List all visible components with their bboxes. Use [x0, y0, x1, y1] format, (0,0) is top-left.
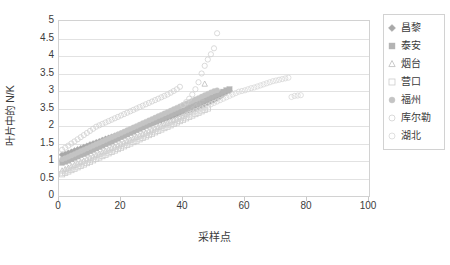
data-point — [128, 109, 133, 114]
data-point — [109, 117, 114, 122]
legend-item-label: 营口 — [401, 77, 421, 87]
data-point — [159, 95, 164, 100]
data-point — [258, 83, 263, 88]
data-point — [230, 92, 235, 97]
x-axis-tick-labels: 020406080100 — [58, 200, 370, 216]
legend-marker-icon — [387, 95, 397, 105]
data-point — [153, 98, 158, 103]
data-point — [156, 96, 161, 101]
legend-item-湖北[interactable]: 湖北 — [387, 127, 441, 145]
legend-marker-icon — [387, 59, 397, 69]
data-point — [252, 85, 257, 90]
legend-item-label: 库尔勒 — [401, 113, 431, 123]
data-point — [196, 80, 201, 85]
y-axis-tick-label: 3 — [20, 85, 54, 95]
y-axis-tick-label: 4 — [20, 50, 54, 60]
y-axis-tick-labels: 00.511.523.533.544.55 — [20, 0, 54, 265]
legend-item-label: 泰安 — [401, 41, 421, 51]
y-axis-tick-label: 5 — [20, 15, 54, 25]
y-axis-title-text: 叶片中的 N/K — [2, 85, 17, 145]
data-point — [267, 80, 272, 85]
y-axis-tick-label: 2 — [20, 120, 54, 130]
legend-marker-icon — [387, 41, 397, 51]
legend-marker-icon — [387, 77, 397, 87]
plot-area — [58, 20, 370, 197]
data-point — [208, 52, 213, 57]
data-point — [261, 82, 266, 87]
legend-item-泰安[interactable]: 泰安 — [387, 37, 441, 55]
data-point — [171, 88, 176, 93]
x-axis-tick-label: 40 — [176, 200, 187, 212]
data-point — [199, 71, 204, 76]
data-point — [103, 120, 108, 125]
data-point — [143, 102, 148, 107]
y-axis-tick-label: 0 — [20, 190, 54, 200]
data-point — [146, 100, 151, 105]
data-point — [134, 106, 139, 111]
data-point — [233, 91, 238, 96]
data-point — [112, 116, 117, 121]
data-point — [131, 107, 136, 112]
legend-item-label: 福州 — [401, 95, 421, 105]
y-axis-tick-label: 3.5 — [20, 103, 54, 113]
series-1 — [60, 87, 233, 166]
legend-item-烟台[interactable]: 烟台 — [387, 55, 441, 73]
data-point — [162, 93, 167, 98]
y-axis-tick-label: 1 — [20, 155, 54, 165]
data-point — [246, 87, 251, 92]
legend-marker-icon — [387, 131, 397, 141]
data-point — [289, 94, 294, 99]
data-point — [165, 92, 170, 97]
data-point — [115, 114, 120, 119]
y-axis-tick-label: 1.5 — [20, 138, 54, 148]
x-axis-tick-label: 0 — [55, 200, 61, 212]
data-point — [125, 110, 130, 115]
legend-item-昌黎[interactable]: 昌黎 — [387, 19, 441, 37]
x-axis-tick-label: 80 — [300, 200, 311, 212]
series-4 — [60, 88, 220, 162]
y-axis-tick-label: 4.5 — [20, 33, 54, 43]
legend-item-福州[interactable]: 福州 — [387, 91, 441, 109]
legend: 昌黎泰安烟台营口福州库尔勒湖北 — [383, 14, 445, 150]
data-point — [97, 123, 102, 128]
x-axis-title: 采样点 — [58, 228, 370, 244]
data-point — [215, 88, 220, 93]
data-point — [286, 75, 291, 80]
data-point — [242, 88, 247, 93]
y-axis-tick-label: 3.5 — [20, 68, 54, 78]
legend-item-label: 湖北 — [401, 131, 421, 141]
data-point — [202, 63, 207, 68]
data-point — [205, 57, 210, 62]
x-axis-tick-label: 100 — [360, 200, 377, 212]
data-point — [168, 90, 173, 95]
legend-item-label: 昌黎 — [401, 23, 421, 33]
data-point — [255, 84, 260, 89]
legend-marker-icon — [387, 113, 397, 123]
legend-item-label: 烟台 — [401, 59, 421, 69]
data-point — [298, 93, 303, 98]
data-point — [149, 99, 154, 104]
legend-item-库尔勒[interactable]: 库尔勒 — [387, 109, 441, 127]
legend-item-营口[interactable]: 营口 — [387, 73, 441, 91]
data-point — [122, 112, 127, 117]
legend-marker-icon — [387, 23, 397, 33]
data-point — [215, 31, 220, 36]
scatter-points-layer — [59, 21, 369, 196]
y-axis-tick-label: 0.5 — [20, 173, 54, 183]
data-point — [106, 119, 111, 124]
data-point — [193, 87, 198, 92]
data-point — [211, 46, 216, 51]
scatter-chart: 叶片中的 N/K 00.511.523.533.544.55 020406080… — [0, 0, 450, 265]
data-point — [264, 81, 269, 86]
data-point — [100, 121, 105, 126]
data-point — [118, 113, 123, 118]
data-point — [202, 81, 207, 86]
data-point — [190, 92, 195, 97]
data-point — [137, 105, 142, 110]
x-axis-tick-label: 20 — [114, 200, 125, 212]
y-axis-title: 叶片中的 N/K — [0, 55, 18, 175]
data-point — [227, 87, 232, 92]
data-point — [140, 103, 145, 108]
x-axis-tick-label: 60 — [238, 200, 249, 212]
